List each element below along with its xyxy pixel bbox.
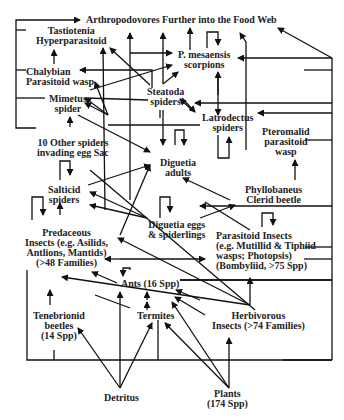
node-diguetia-eggs: Diguetia eggs & spiderlings bbox=[148, 220, 206, 240]
node-ants: Ants (16 Spp) bbox=[121, 279, 179, 289]
node-detritus: Detritus bbox=[104, 393, 139, 403]
node-steatoda: Steatoda spiders bbox=[147, 87, 184, 107]
node-tenebrionid: Tenebrionid beetles (14 Spp) bbox=[33, 311, 85, 341]
node-scorpions: P. mesaensis scorpions bbox=[178, 50, 230, 70]
node-parasitoid-insects: Parasitoid Insects (e.g. Mutillid & Tiph… bbox=[216, 231, 316, 271]
node-tastiotenia: Tastiotenia Hyperparasitoid bbox=[36, 26, 107, 46]
node-phyllobaneus: Phyllobaneus Clerid beetle bbox=[245, 185, 302, 205]
node-other-spiders: 10 Other spiders invading egg Sac bbox=[37, 138, 109, 158]
node-latrodectus: Latrodectus spiders bbox=[202, 113, 253, 133]
node-termites: Termites bbox=[137, 311, 174, 321]
node-salticid: Salticid spiders bbox=[48, 185, 80, 205]
node-predaceous: Predaceous Insects (e.g. Asilids, Antlio… bbox=[25, 228, 108, 268]
food-web-edges bbox=[0, 0, 344, 420]
node-plants: Plants (174 Spp) bbox=[207, 389, 248, 409]
node-chalybian: Chalybian Parasitoid wasp bbox=[26, 67, 94, 87]
node-diguetia-adults: Diguetia adults bbox=[160, 158, 196, 178]
node-mimetus: Mimetus spider bbox=[49, 94, 87, 114]
node-pteromalid: Pteromalid parasitoid wasp bbox=[262, 127, 310, 157]
node-herbivorous: Herbivorous Insects (>74 Families) bbox=[212, 311, 305, 331]
node-top: Arthropodovores Further into the Food We… bbox=[86, 15, 277, 25]
